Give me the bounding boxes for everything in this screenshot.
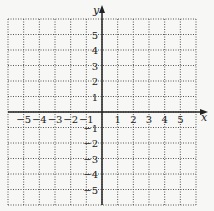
x-tick-label: −3 — [48, 114, 63, 125]
y-axis-arrow-icon — [99, 5, 105, 13]
x-tick-label: 1 — [114, 114, 120, 125]
x-tick-label: 2 — [130, 114, 136, 125]
y-axis-label: y — [92, 4, 100, 17]
y-tick-label: 3 — [92, 61, 98, 72]
y-tick-label: −1 — [83, 123, 98, 134]
y-tick-label: 2 — [92, 76, 98, 87]
x-tick-label: −2 — [63, 114, 78, 125]
y-tick-label: −5 — [83, 185, 98, 196]
y-tick-label: 4 — [92, 45, 98, 56]
x-axis-label: x — [201, 111, 208, 124]
y-tick-label: 5 — [92, 30, 98, 41]
y-tick-label: 1 — [92, 92, 98, 103]
x-tick-label: −5 — [16, 114, 31, 125]
x-tick-label: 5 — [177, 114, 183, 125]
coordinate-grid: −5−4−3−2−112345 54321−1−2−3−4−5 x y — [0, 0, 214, 211]
y-tick-label: −3 — [83, 154, 98, 165]
y-tick-label: −2 — [83, 138, 98, 149]
y-tick-label: −4 — [83, 169, 98, 180]
x-tick-labels: −5−4−3−2−112345 — [16, 114, 183, 125]
x-tick-label: 3 — [146, 114, 152, 125]
x-tick-label: 4 — [161, 114, 167, 125]
x-tick-label: −4 — [32, 114, 47, 125]
